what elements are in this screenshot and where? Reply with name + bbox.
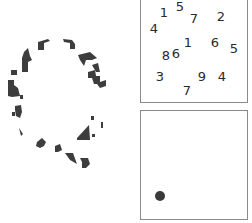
dot-marker xyxy=(155,191,165,201)
number-7: 7 xyxy=(183,84,191,97)
number-3: 3 xyxy=(156,70,164,83)
number-panel: 1 5 7 2 4 1 6 5 8 6 3 9 4 7 xyxy=(140,0,248,103)
number-5: 5 xyxy=(176,0,184,13)
number-7: 7 xyxy=(190,12,198,25)
number-4: 4 xyxy=(218,70,226,83)
number-8: 8 xyxy=(162,49,170,62)
fragmented-q-letter xyxy=(0,30,120,180)
number-4: 4 xyxy=(150,22,158,35)
number-5: 5 xyxy=(230,42,238,55)
number-1: 1 xyxy=(160,6,168,19)
number-1: 1 xyxy=(184,36,192,49)
number-2: 2 xyxy=(217,10,225,23)
number-6: 6 xyxy=(172,47,180,60)
number-9: 9 xyxy=(198,70,206,83)
dot-panel xyxy=(140,110,248,220)
number-6: 6 xyxy=(211,36,219,49)
figure: 1 5 7 2 4 1 6 5 8 6 3 9 4 7 xyxy=(0,0,252,223)
